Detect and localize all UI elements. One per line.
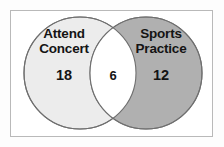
set-label-attend-concert-line1: Attend [43,26,85,41]
set-label-attend-concert-line2: Concert [39,41,89,56]
venn-diagram-canvas: Attend Concert Sports Practice 18 6 12 [0,0,224,147]
count-intersection: 6 [109,68,116,83]
count-sports-practice-only: 12 [153,67,169,83]
set-label-sports-practice-line2: Practice [136,41,188,56]
count-attend-concert-only: 18 [56,67,72,83]
venn-diagram: Attend Concert Sports Practice 18 6 12 [0,0,224,147]
set-label-sports-practice-line1: Sports [140,26,182,41]
